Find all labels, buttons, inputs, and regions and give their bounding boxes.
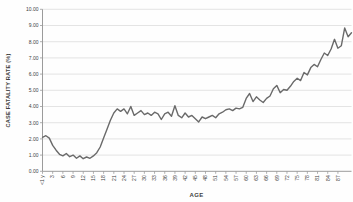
x-tick-label: 48 [202,175,208,181]
x-tick-label: 84 [325,175,331,181]
x-tick-label: 36 [162,175,168,181]
x-tick-label: 21 [111,175,117,181]
x-tick-label: 63 [253,175,259,181]
x-tick-label: 15 [90,175,96,181]
x-tick-label: 72 [284,175,290,181]
x-tick-label: 30 [141,175,147,181]
x-tick-label: 9 [70,175,76,178]
y-tick-label: 8.00 [29,39,39,45]
x-tick-label: <1 y [39,175,45,185]
x-tick-label: 66 [263,175,269,181]
x-tick-label: 6 [60,175,66,178]
x-tick-label: 78 [304,175,310,181]
x-tick-label: 3 [49,175,55,178]
y-tick-label: 10.00 [26,6,39,12]
x-tick-label: 75 [294,175,300,181]
y-tick-label: 5.00 [29,87,39,93]
x-tick-label: 42 [182,175,188,181]
y-tick-label: 9.00 [29,22,39,28]
x-tick-label: 24 [121,175,127,181]
y-tick-label: 6.00 [29,71,39,77]
x-tick-label: 51 [212,175,218,181]
x-tick-label: 39 [172,175,178,181]
x-tick-label: 33 [151,175,157,181]
x-tick-label: 81 [314,175,320,181]
chart: 0.001.002.003.004.005.006.007.008.009.00… [0,0,353,202]
x-tick-label: 12 [80,175,86,181]
y-axis-title: CASE FATALITY RATE (%) [3,10,14,172]
x-tick-label: 69 [274,175,280,181]
chart-svg: 0.001.002.003.004.005.006.007.008.009.00… [0,0,353,202]
y-tick-label: 4.00 [29,103,39,109]
x-axis-title: AGE [42,190,351,200]
y-tick-label: 3.00 [29,120,39,126]
x-tick-label: 60 [243,175,249,181]
x-tick-label: 57 [233,175,239,181]
y-tick-label: 1.00 [29,152,39,158]
y-tick-label: 0.00 [29,168,39,174]
y-tick-label: 7.00 [29,55,39,61]
x-tick-label: 18 [100,175,106,181]
x-tick-label: 45 [192,175,198,181]
x-tick-label: 87 [335,175,341,181]
x-tick-label: 27 [131,175,137,181]
y-tick-label: 2.00 [29,136,39,142]
x-tick-label: 54 [223,175,229,181]
